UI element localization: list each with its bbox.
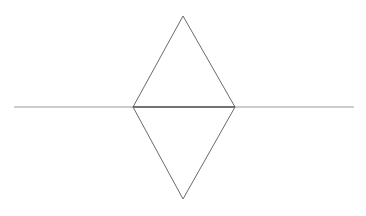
diagram-canvas xyxy=(0,0,366,216)
rhombus-diagram xyxy=(0,0,366,216)
upper-triangle xyxy=(133,16,235,107)
lower-triangle xyxy=(133,107,235,199)
